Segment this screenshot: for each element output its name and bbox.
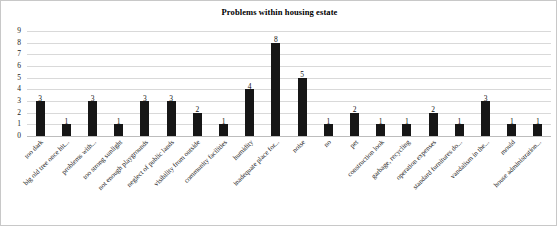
bar[interactable]: 5 xyxy=(298,78,307,136)
x-tick-label: house administration... xyxy=(493,139,543,189)
bar-value-label: 1 xyxy=(326,118,330,126)
bar[interactable]: 2 xyxy=(350,113,359,136)
bar-chart: Problems within housing estate 012345678… xyxy=(0,0,557,226)
x-tick-label: humidity xyxy=(232,139,255,162)
bar-wrap: 2 xyxy=(420,113,446,136)
bar-slot: 1 xyxy=(315,31,341,136)
x-tick-label: too dark xyxy=(24,139,45,160)
bar-slot: 1 xyxy=(53,31,79,136)
bar-value-label: 1 xyxy=(222,118,226,126)
bar-wrap: 1 xyxy=(499,124,525,136)
bar-wrap: 3 xyxy=(158,101,184,136)
bar-wrap: 1 xyxy=(394,124,420,136)
y-tick-label: 4 xyxy=(17,86,21,94)
bar-value-label: 1 xyxy=(64,118,68,126)
bar-value-label: 1 xyxy=(117,118,121,126)
bar-value-label: 8 xyxy=(274,36,278,44)
bar-wrap: 3 xyxy=(472,101,498,136)
bar[interactable]: 1 xyxy=(402,124,411,136)
bar-value-label: 1 xyxy=(536,118,540,126)
bar[interactable]: 1 xyxy=(376,124,385,136)
x-tick-label: mould xyxy=(499,139,517,157)
bar-value-label: 2 xyxy=(195,106,199,114)
x-tick-label: no xyxy=(323,139,333,149)
bar[interactable]: 4 xyxy=(245,89,254,136)
bar-wrap: 4 xyxy=(237,89,263,136)
bar-value-label: 1 xyxy=(379,118,383,126)
bar-slot: 1 xyxy=(368,31,394,136)
bar[interactable]: 3 xyxy=(36,101,45,136)
bar-value-label: 4 xyxy=(248,83,252,91)
y-tick-label: 0 xyxy=(17,132,21,140)
bar-wrap: 3 xyxy=(27,101,53,136)
bar-slot: 3 xyxy=(158,31,184,136)
bar-slot: 8 xyxy=(263,31,289,136)
y-tick-label: 9 xyxy=(17,27,21,35)
bar-value-label: 3 xyxy=(91,95,95,103)
bar-slot: 3 xyxy=(79,31,105,136)
y-tick-label: 1 xyxy=(17,121,21,129)
x-tick-label: standard furnitures do... xyxy=(412,139,464,191)
y-tick-label: 6 xyxy=(17,62,21,70)
bar[interactable]: 1 xyxy=(533,124,542,136)
bar-slot: 3 xyxy=(27,31,53,136)
bar[interactable]: 1 xyxy=(455,124,464,136)
bar[interactable]: 3 xyxy=(140,101,149,136)
bar-wrap: 1 xyxy=(106,124,132,136)
bar-slot: 3 xyxy=(132,31,158,136)
bar-value-label: 1 xyxy=(457,118,461,126)
bar-value-label: 5 xyxy=(300,71,304,79)
bar[interactable]: 2 xyxy=(429,113,438,136)
bar[interactable]: 1 xyxy=(324,124,333,136)
y-axis: 0123456789 xyxy=(1,31,25,136)
bar-value-label: 1 xyxy=(405,118,409,126)
bar-wrap: 2 xyxy=(184,113,210,136)
x-axis: too darkbig old tree once hit...problems… xyxy=(27,137,551,225)
y-tick-label: 5 xyxy=(17,74,21,82)
bar-slot: 1 xyxy=(106,31,132,136)
bar-value-label: 3 xyxy=(38,95,42,103)
bar[interactable]: 1 xyxy=(507,124,516,136)
bar-value-label: 3 xyxy=(484,95,488,103)
bar[interactable]: 8 xyxy=(271,43,280,136)
bar-wrap: 1 xyxy=(53,124,79,136)
bar-slot: 1 xyxy=(446,31,472,136)
bar[interactable]: 3 xyxy=(481,101,490,136)
bar[interactable]: 1 xyxy=(114,124,123,136)
bar-slot: 1 xyxy=(394,31,420,136)
bar-slot: 1 xyxy=(525,31,551,136)
bar-slot: 3 xyxy=(472,31,498,136)
bar-slot: 2 xyxy=(341,31,367,136)
bar-value-label: 2 xyxy=(353,106,357,114)
bar-wrap: 8 xyxy=(263,43,289,136)
x-tick-label: noise xyxy=(292,139,307,154)
bar-series: 31313321485121121311 xyxy=(27,31,551,136)
bar-wrap: 2 xyxy=(341,113,367,136)
bar-value-label: 3 xyxy=(143,95,147,103)
bar[interactable]: 2 xyxy=(193,113,202,136)
bar-slot: 5 xyxy=(289,31,315,136)
bar-value-label: 1 xyxy=(510,118,514,126)
bar[interactable]: 3 xyxy=(167,101,176,136)
bar-slot: 2 xyxy=(184,31,210,136)
bar-slot: 2 xyxy=(420,31,446,136)
y-tick-label: 2 xyxy=(17,109,21,117)
bar[interactable]: 1 xyxy=(62,124,71,136)
bar-value-label: 3 xyxy=(169,95,173,103)
bar[interactable]: 1 xyxy=(219,124,228,136)
bar[interactable]: 3 xyxy=(88,101,97,136)
plot-area: 31313321485121121311 xyxy=(27,31,551,136)
bar-wrap: 1 xyxy=(210,124,236,136)
bar-wrap: 1 xyxy=(525,124,551,136)
bar-wrap: 5 xyxy=(289,78,315,136)
bar-slot: 1 xyxy=(210,31,236,136)
bar-wrap: 3 xyxy=(132,101,158,136)
y-tick-label: 3 xyxy=(17,97,21,105)
y-tick-label: 8 xyxy=(17,39,21,47)
bar-wrap: 1 xyxy=(446,124,472,136)
bar-wrap: 3 xyxy=(79,101,105,136)
bar-value-label: 2 xyxy=(431,106,435,114)
y-tick-label: 7 xyxy=(17,51,21,59)
bar-slot: 1 xyxy=(499,31,525,136)
x-tick-label: pet xyxy=(348,139,359,150)
